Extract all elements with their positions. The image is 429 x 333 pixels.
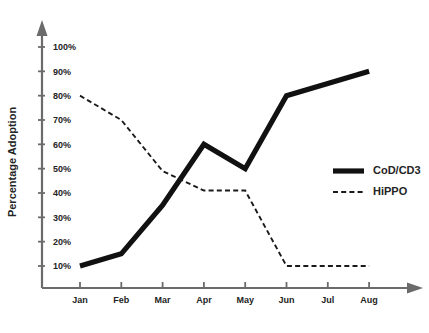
y-tick-label: 50%: [53, 164, 71, 174]
arrow-right-icon: [407, 283, 423, 294]
x-tick-label: Jun: [278, 295, 294, 305]
x-tick-label: Apr: [196, 295, 212, 305]
series-line-cod-cd3: [80, 71, 369, 266]
legend-label: HiPPO: [373, 185, 408, 197]
y-axis-ticks: 10%20%30%40%50%60%70%80%90%100%: [38, 42, 76, 271]
y-tick-label: 20%: [53, 237, 71, 247]
y-tick-label: 80%: [53, 91, 71, 101]
y-tick-label: 90%: [53, 67, 71, 77]
x-axis-ticks: JanFebMarAprMayJunJulAug: [72, 282, 378, 305]
x-tick-label: Jan: [72, 295, 88, 305]
y-axis: [37, 20, 48, 288]
x-tick-label: Aug: [360, 295, 378, 305]
y-axis-title: Percentage Adoption: [6, 107, 18, 217]
series-line-hippo: [80, 96, 369, 266]
y-tick-label: 40%: [53, 188, 71, 198]
series-layer: [80, 71, 369, 266]
y-tick-label: 10%: [53, 261, 71, 271]
chart-legend: CoD/CD3HiPPO: [333, 164, 421, 197]
y-tick-label: 30%: [53, 213, 71, 223]
y-tick-label: 100%: [53, 42, 76, 52]
x-tick-label: Feb: [113, 295, 130, 305]
legend-label: CoD/CD3: [373, 164, 421, 176]
x-axis: [42, 283, 423, 294]
x-tick-label: Mar: [155, 295, 172, 305]
y-tick-label: 60%: [53, 140, 71, 150]
y-tick-label: 70%: [53, 115, 71, 125]
chart-canvas: 10%20%30%40%50%60%70%80%90%100% JanFebMa…: [0, 0, 429, 333]
legend-item: HiPPO: [333, 185, 408, 197]
line-chart: 10%20%30%40%50%60%70%80%90%100% JanFebMa…: [0, 0, 429, 333]
x-tick-label: May: [236, 295, 254, 305]
arrow-up-icon: [37, 20, 48, 36]
x-tick-label: Jul: [321, 295, 334, 305]
legend-item: CoD/CD3: [333, 164, 421, 176]
